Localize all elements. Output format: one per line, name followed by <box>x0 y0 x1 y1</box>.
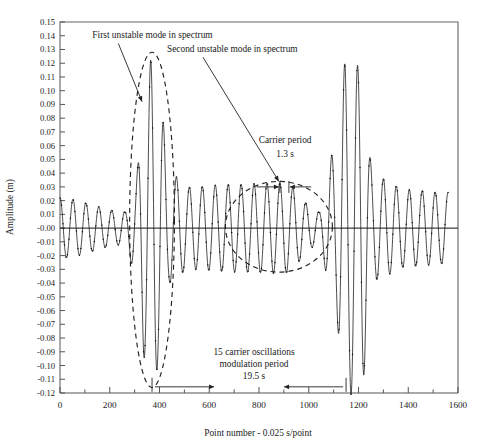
data-point <box>249 253 251 255</box>
x-tick-label: 1400 <box>399 400 418 410</box>
data-point <box>355 137 357 139</box>
data-point <box>406 224 408 226</box>
data-point <box>250 223 252 225</box>
data-point <box>144 345 146 347</box>
data-point <box>362 363 364 365</box>
data-point <box>435 195 437 197</box>
y-tick-label: 0.13 <box>40 44 55 54</box>
data-point <box>146 279 148 281</box>
figure-panel: 0.150.140.130.120.110.100.090.080.070.06… <box>0 0 486 443</box>
data-point <box>243 211 245 213</box>
data-point <box>270 232 272 234</box>
leader-head-first-mode <box>138 96 142 102</box>
data-point <box>241 188 243 190</box>
y-tick-labels: 0.150.140.130.120.110.100.090.080.070.06… <box>37 17 56 398</box>
data-point <box>329 178 331 180</box>
x-tick-label: 1200 <box>349 400 368 410</box>
leader-head-second-mode <box>274 176 279 182</box>
data-point <box>97 211 99 213</box>
data-point <box>116 240 118 242</box>
data-point <box>253 183 255 185</box>
x-tick-label: 0 <box>58 400 63 410</box>
data-point <box>119 240 121 242</box>
chart-svg: 0.150.140.130.120.110.100.090.080.070.06… <box>0 0 486 443</box>
data-point <box>364 365 366 367</box>
data-point <box>280 187 282 189</box>
data-point <box>152 127 154 128</box>
data-point <box>194 258 196 260</box>
data-point <box>137 167 139 169</box>
data-point <box>365 300 367 302</box>
y-tick-label: -0.00 <box>37 223 55 233</box>
y-tick-label: 0.12 <box>40 58 55 68</box>
data-point <box>391 262 393 264</box>
y-axis-label: Amplitude (m) <box>5 179 16 235</box>
data-point <box>173 222 175 224</box>
y-tick-label: 0.04 <box>40 168 56 178</box>
data-point <box>420 194 422 196</box>
data-point <box>180 253 182 255</box>
data-point <box>143 351 145 353</box>
data-point <box>244 242 246 244</box>
data-point <box>341 179 343 181</box>
data-point <box>340 276 342 278</box>
annotation-labels: First unstable mode in spectrumSecond un… <box>92 30 312 381</box>
data-point <box>295 222 297 224</box>
data-point <box>77 248 79 250</box>
data-point <box>411 222 413 224</box>
data-point <box>237 234 239 236</box>
annotation-modulation-label: modulation period <box>220 359 289 369</box>
y-tick-label: 0.03 <box>40 182 55 192</box>
amplitude-trace <box>60 60 448 394</box>
data-point <box>247 271 249 273</box>
data-point <box>385 199 387 201</box>
data-point <box>367 217 369 219</box>
data-point <box>425 231 427 233</box>
data-point <box>413 248 415 250</box>
data-point <box>423 205 425 207</box>
data-point <box>334 216 336 218</box>
data-point <box>213 196 215 198</box>
data-point <box>374 256 376 258</box>
data-point <box>328 221 330 223</box>
data-point <box>358 82 360 84</box>
data-point <box>211 223 213 225</box>
data-point <box>416 261 418 263</box>
data-point <box>114 229 116 231</box>
data-point <box>125 212 127 214</box>
data-point <box>317 211 319 213</box>
y-tick-label: -0.08 <box>37 333 55 343</box>
data-point <box>325 269 327 271</box>
data-point <box>267 183 269 185</box>
data-point <box>320 220 322 222</box>
x-tick-label: 800 <box>252 400 266 410</box>
data-point <box>165 199 167 201</box>
data-point <box>204 212 206 214</box>
data-point <box>300 256 302 258</box>
data-point <box>347 244 349 246</box>
data-point <box>346 129 348 131</box>
data-point <box>289 223 291 225</box>
data-point <box>226 189 228 191</box>
data-point <box>113 217 115 219</box>
data-point <box>89 235 91 237</box>
y-tick-label: -0.06 <box>37 306 56 316</box>
data-point <box>403 266 405 268</box>
data-point <box>265 188 267 190</box>
data-point <box>301 239 303 241</box>
data-point <box>141 292 143 294</box>
data-point <box>111 210 113 212</box>
y-tick-label: 0.14 <box>40 31 56 41</box>
data-point <box>126 220 128 222</box>
data-point <box>106 245 108 247</box>
y-tick-label: 0.09 <box>40 99 55 109</box>
data-point <box>61 204 63 206</box>
data-point <box>428 264 430 266</box>
data-point <box>277 202 279 204</box>
data-point <box>414 264 416 266</box>
data-point <box>389 273 391 275</box>
data-point <box>182 271 184 273</box>
data-point <box>174 189 176 191</box>
data-point <box>409 189 411 191</box>
data-point <box>171 259 173 261</box>
